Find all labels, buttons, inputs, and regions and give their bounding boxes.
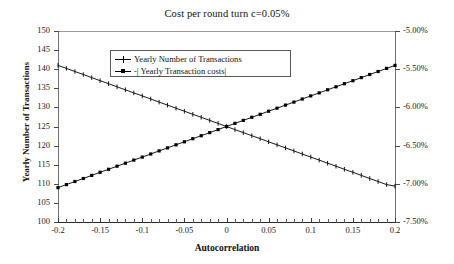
x-tick-minor	[243, 219, 244, 223]
series-markers-1	[56, 64, 396, 189]
x-ticklabel: 0.05	[249, 225, 289, 235]
x-tick-major	[227, 218, 228, 223]
series-line-0	[58, 65, 395, 186]
x-tick-minor	[168, 219, 169, 223]
y-tick-left	[54, 88, 59, 89]
x-tick-major	[311, 218, 312, 223]
y-tick-left	[54, 184, 59, 185]
y-ticklabel-right: -6.00%	[403, 101, 449, 111]
x-tick-minor	[286, 219, 287, 223]
x-tick-minor	[66, 219, 67, 223]
x-tick-minor	[260, 219, 261, 223]
y-axis-left-title: Yearly Number of Transactions	[21, 27, 31, 217]
x-ticklabel: -0.2	[38, 225, 78, 235]
x-tick-major	[269, 218, 270, 223]
x-tick-minor	[117, 219, 118, 223]
x-tick-minor	[294, 219, 295, 223]
x-tick-minor	[378, 219, 379, 223]
chart-legend: Yearly Number of Transactions -| Yearly …	[110, 50, 291, 77]
legend-item-costs: -| Yearly Transaction costs|	[115, 65, 286, 77]
x-tick-minor	[193, 219, 194, 223]
y-tick-right	[395, 184, 400, 185]
y-tick-left	[54, 50, 59, 51]
x-tick-minor	[277, 219, 278, 223]
x-axis-title: Autocorrelation	[0, 243, 454, 253]
y-tick-right	[395, 146, 400, 147]
chart-title: Cost per round turn c=0.05%	[0, 8, 454, 19]
x-ticklabel: -0.15	[80, 225, 120, 235]
x-tick-minor	[252, 219, 253, 223]
y-ticklabel-right: -5.00%	[403, 25, 449, 35]
x-ticklabel: 0	[207, 225, 247, 235]
y-axis-right-line	[395, 31, 396, 222]
x-tick-minor	[336, 219, 337, 223]
plot-frame-top	[58, 31, 395, 32]
x-tick-major	[142, 218, 143, 223]
x-tick-major	[395, 218, 396, 223]
x-tick-minor	[176, 219, 177, 223]
y-tick-left	[54, 69, 59, 70]
x-tick-minor	[201, 219, 202, 223]
legend-item-transactions: Yearly Number of Transactions	[115, 53, 286, 65]
chart-container: Cost per round turn c=0.05% 100105110115…	[0, 0, 454, 264]
legend-label-costs: -| Yearly Transaction costs|	[134, 66, 226, 76]
y-tick-right	[395, 69, 400, 70]
x-tick-minor	[235, 219, 236, 223]
x-ticklabel: -0.1	[122, 225, 162, 235]
series-markers-0	[58, 63, 395, 188]
x-ticklabel: 0.1	[291, 225, 331, 235]
legend-label-transactions: Yearly Number of Transactions	[134, 54, 242, 64]
x-tick-major	[100, 218, 101, 223]
x-tick-minor	[109, 219, 110, 223]
x-tick-minor	[319, 219, 320, 223]
y-ticklabel-right: -5.50%	[403, 63, 449, 73]
y-tick-left	[54, 165, 59, 166]
x-tick-major	[353, 218, 354, 223]
x-tick-minor	[218, 219, 219, 223]
legend-marker-plus-icon	[115, 54, 131, 64]
x-tick-major	[184, 218, 185, 223]
x-ticklabel: -0.05	[164, 225, 204, 235]
x-tick-minor	[134, 219, 135, 223]
legend-marker-square-icon	[115, 66, 131, 76]
x-tick-minor	[302, 219, 303, 223]
x-tick-minor	[151, 219, 152, 223]
y-tick-right	[395, 31, 400, 32]
x-ticklabel: 0.15	[333, 225, 373, 235]
x-tick-minor	[210, 219, 211, 223]
x-tick-minor	[92, 219, 93, 223]
x-tick-major	[58, 218, 59, 223]
y-ticklabel-right: -7.00%	[403, 178, 449, 188]
y-tick-left	[54, 127, 59, 128]
x-ticklabel: 0.2	[375, 225, 415, 235]
series-line-1	[58, 65, 395, 187]
x-tick-minor	[83, 219, 84, 223]
y-tick-left	[54, 31, 59, 32]
y-tick-left	[54, 107, 59, 108]
y-tick-right	[395, 107, 400, 108]
y-tick-left	[54, 203, 59, 204]
x-tick-minor	[387, 219, 388, 223]
x-tick-minor	[328, 219, 329, 223]
x-tick-minor	[344, 219, 345, 223]
x-tick-minor	[370, 219, 371, 223]
y-ticklabel-right: -6.50%	[403, 140, 449, 150]
y-tick-left	[54, 146, 59, 147]
x-tick-minor	[361, 219, 362, 223]
x-tick-minor	[159, 219, 160, 223]
x-tick-minor	[75, 219, 76, 223]
x-tick-minor	[125, 219, 126, 223]
